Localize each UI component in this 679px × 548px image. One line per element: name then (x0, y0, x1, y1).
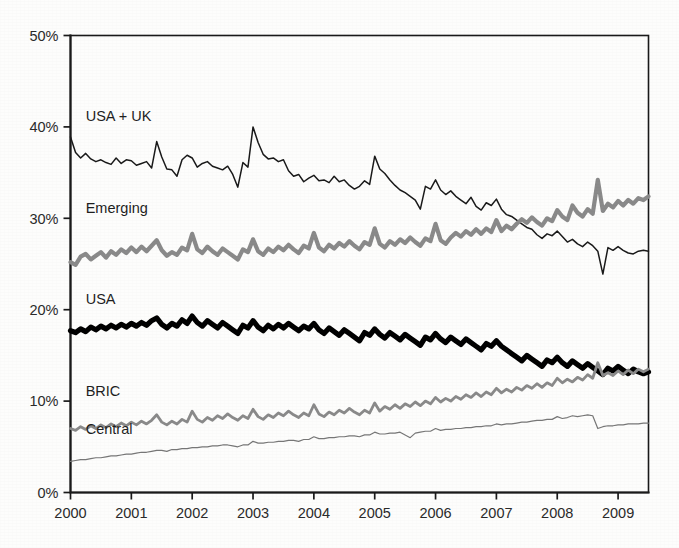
series-label-emerging: Emerging (86, 200, 148, 216)
x-axis-tick-label: 2000 (54, 505, 86, 521)
x-axis-tick-label: 2009 (602, 505, 634, 521)
y-axis-tick-label: 0% (38, 485, 59, 501)
series-label-bric: BRIC (86, 383, 121, 399)
x-axis-tick-label: 2004 (298, 505, 330, 521)
series-label-usa: USA (86, 291, 116, 307)
x-axis-tick-label: 2005 (359, 505, 391, 521)
chart-container: 0%10%20%30%40%50% 2000200120022003200420… (0, 0, 679, 548)
y-axis-tick-label: 10% (29, 393, 58, 409)
series-label-usa-uk: USA + UK (86, 108, 152, 124)
y-axis-tick-label: 30% (29, 211, 58, 227)
x-axis-tick-label: 2006 (419, 505, 451, 521)
line-chart: 0%10%20%30%40%50% 2000200120022003200420… (0, 0, 679, 548)
x-axis-tick-label: 2003 (237, 505, 269, 521)
series-label-central: Central (86, 421, 133, 437)
y-axis-tick-label: 20% (29, 302, 58, 318)
x-axis-tick-label: 2002 (176, 505, 208, 521)
x-axis-tick-label: 2008 (541, 505, 573, 521)
y-axis-tick-label: 50% (29, 28, 58, 44)
chart-background (0, 0, 679, 548)
x-axis-tick-label: 2001 (115, 505, 147, 521)
x-axis-tick-label: 2007 (480, 505, 512, 521)
y-axis-tick-label: 40% (29, 119, 58, 135)
